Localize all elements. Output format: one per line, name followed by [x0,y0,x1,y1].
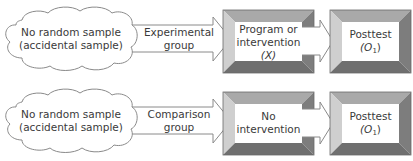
group-label-row2: Comparison group [140,108,218,134]
group-line2-row1: group [140,39,218,52]
outcome-label-row1: Posttest (O1) [342,28,399,58]
group-line1-row1: Experimental [140,26,218,39]
treatment-symbol-row1: (X) [261,49,276,61]
sample-label-row1: No random sample (accidental sample) [12,26,130,52]
treatment-line1-row1: Program or [235,23,302,36]
outcome-line1-row2: Posttest [342,110,399,123]
treatment-label-row2: No intervention [235,110,302,136]
treatment-line3-row1: (X) [235,49,302,62]
treatment-line2-row1: intervention [235,36,302,49]
group-line1-row2: Comparison [140,108,218,121]
outcome-line2-row1: (O1) [342,41,399,58]
sample-label-row2: No random sample (accidental sample) [12,108,130,134]
outcome-symbol-row2: (O [360,123,372,135]
sample-line2-row1: (accidental sample) [12,39,130,52]
treatment-line2-row2: intervention [235,123,302,136]
treatment-line1-row2: No [235,110,302,123]
outcome-close-row1: ) [377,41,381,53]
outcome-line2-row2: (O1) [342,123,399,140]
treatment-label-row1: Program or intervention (X) [235,23,302,62]
sample-line2-row2: (accidental sample) [12,121,130,134]
group-label-row1: Experimental group [140,26,218,52]
outcome-label-row2: Posttest (O1) [342,110,399,140]
outcome-close-row2: ) [377,123,381,135]
sample-line1-row2: No random sample [12,108,130,121]
outcome-symbol-row1: (O [360,41,372,53]
group-line2-row2: group [140,121,218,134]
sample-line1-row1: No random sample [12,26,130,39]
outcome-line1-row1: Posttest [342,28,399,41]
